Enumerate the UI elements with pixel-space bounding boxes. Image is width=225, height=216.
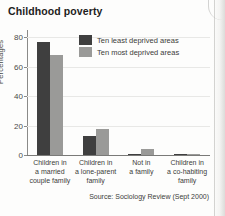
- x-axis-category-label: Children ina co-habitingfamily: [161, 158, 213, 185]
- source-note: Source: Sociology Review (Sept 2000): [89, 193, 209, 200]
- y-axis-tick-label: 0: [19, 151, 23, 160]
- legend-item: Ten least deprived areas: [79, 34, 179, 46]
- page-edge-shading: [213, 0, 225, 216]
- chart-legend: Ten least deprived areasTen most deprive…: [79, 34, 179, 58]
- chart-figure: Childhood poverty Percentages 020406080 …: [0, 0, 225, 216]
- bar: [187, 154, 200, 155]
- legend-item: Ten most deprived areas: [79, 46, 179, 58]
- x-axis-category-label: Not ina family: [116, 158, 168, 176]
- bar: [174, 154, 187, 155]
- y-axis-tick-mark: [24, 155, 27, 156]
- bar: [96, 129, 109, 155]
- legend-color-swatch: [79, 35, 92, 45]
- x-axis-category-label: Children ina marriedcouple family: [24, 158, 76, 185]
- gridline: [27, 155, 210, 156]
- y-axis-tick-label: 40: [14, 92, 23, 101]
- x-axis-category-labels: Children ina marriedcouple familyChildre…: [27, 158, 210, 192]
- y-axis-tick-label: 60: [14, 62, 23, 71]
- chart-title: Childhood poverty: [8, 5, 102, 17]
- bar-group: [27, 30, 73, 155]
- bar: [37, 42, 50, 155]
- y-axis-title: Percentages: [0, 4, 5, 84]
- legend-label: Ten most deprived areas: [97, 48, 179, 57]
- bar: [50, 55, 63, 155]
- y-axis-tick-label: 20: [14, 121, 23, 130]
- y-axis-tick-label: 80: [14, 33, 23, 42]
- legend-label: Ten least deprived areas: [97, 36, 179, 45]
- page-edge-line: [214, 0, 215, 216]
- bar: [128, 154, 141, 155]
- bar: [141, 149, 154, 155]
- legend-color-swatch: [79, 47, 92, 57]
- x-axis-category-label: Children ina lone-parentfamily: [70, 158, 122, 185]
- bar: [83, 136, 96, 155]
- page-corner-curl: [208, 0, 225, 20]
